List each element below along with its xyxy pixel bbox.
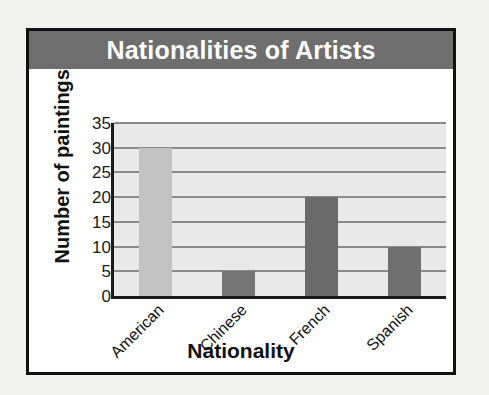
bar-french xyxy=(305,197,338,296)
x-axis-title: Nationality xyxy=(29,339,453,363)
bar-chinese xyxy=(222,271,255,296)
bars xyxy=(114,123,446,296)
y-axis-tick-label: 5 xyxy=(102,263,111,280)
y-axis-tick-label: 20 xyxy=(92,189,111,206)
x-axis-tick-label: American xyxy=(63,301,168,375)
chart-body: Number of paintings 05101520253035 Ameri… xyxy=(29,69,453,372)
y-axis-tick-label: 35 xyxy=(92,115,111,132)
chart-card: Nationalities of Artists Number of paint… xyxy=(26,28,456,375)
bar-spanish xyxy=(388,247,421,296)
chart-title: Nationalities of Artists xyxy=(106,36,375,65)
y-axis-tick-label: 30 xyxy=(92,139,111,156)
y-axis-tick-label: 25 xyxy=(92,164,111,181)
y-axis-tick-label: 0 xyxy=(102,288,111,305)
y-axis-tick-labels: 05101520253035 xyxy=(75,123,111,296)
y-axis-title: Number of paintings xyxy=(51,74,74,264)
plot-area xyxy=(111,123,446,299)
chart-screenshot: Nationalities of Artists Number of paint… xyxy=(0,0,489,395)
y-axis-tick-label: 15 xyxy=(92,213,111,230)
bar-american xyxy=(139,148,172,296)
y-axis-tick-label: 10 xyxy=(92,238,111,255)
chart-title-bar: Nationalities of Artists xyxy=(29,31,453,69)
